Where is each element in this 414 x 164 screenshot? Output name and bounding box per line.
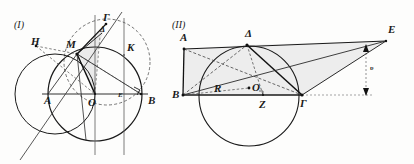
panel-1-label-E: E (118, 92, 123, 99)
panel1-point-dot-M (75, 52, 78, 55)
figure-drawing-canvas (0, 0, 414, 164)
panel2-segment-AB (183, 49, 184, 95)
panel-2-number-label: (II) (172, 20, 185, 30)
panel2-point-dot-O (248, 87, 251, 90)
panel-2-label-Gamma: Γ (300, 98, 307, 109)
panel-1-label-H: H (31, 36, 40, 47)
panel-2-label-R: R (214, 83, 221, 94)
panel2-point-dot-A (183, 48, 186, 51)
panel2-point-dot-Z (262, 94, 264, 96)
panel-2-label-O: O (252, 82, 260, 93)
geometry-figure: (I) H M Γ Δ K A O E B (II) A Δ E B R O Z… (0, 0, 414, 164)
panel-1-label-O: O (88, 97, 96, 108)
panel-1-label-A: A (44, 95, 51, 106)
panel-1-label-Delta: Δ (100, 26, 105, 34)
panel-2-label-B: B (172, 89, 179, 100)
panel-2-label-Delta: Δ (245, 28, 252, 39)
panel1-point-dot-O (94, 93, 96, 95)
panel2-point-dot-Delta (245, 43, 248, 46)
panel1-point-dot-K (123, 54, 125, 56)
panel2-point-dot-E (385, 40, 387, 42)
panel-2-label-upsilon: υ (370, 65, 373, 72)
panel-1-label-B: B (148, 95, 155, 106)
panel2-point-dot-B (182, 94, 185, 97)
panel1-dashed-construction-circle (64, 19, 150, 105)
panel-2-label-Z: Z (259, 99, 266, 110)
panel-2-label-E: E (388, 24, 395, 35)
panel-1-label-K: K (127, 42, 134, 53)
panel-1-label-M: M (66, 39, 76, 50)
panel-2-label-A: A (180, 32, 187, 43)
panel-1-label-Gamma: Γ (103, 12, 110, 23)
panel-1-number-label: (I) (14, 20, 24, 30)
panel1-point-dot-B (140, 93, 142, 95)
panel-2-drawing (182, 40, 388, 146)
panel1-point-dot-Gamma (105, 23, 108, 26)
